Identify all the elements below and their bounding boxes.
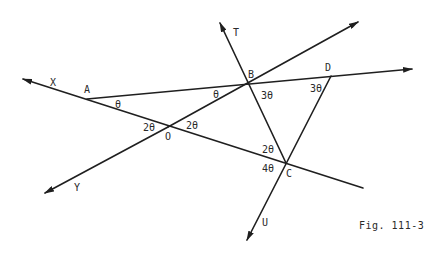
angle-a-theta: θ (115, 99, 121, 110)
label-y: Y (74, 182, 80, 193)
angle-o-right-2theta: 2θ (186, 120, 198, 131)
label-c: C (286, 168, 292, 179)
figure-caption: Fig. 111-3 (359, 220, 424, 231)
angle-b-3theta: 3θ (261, 90, 273, 101)
line-x-to-c (23, 79, 363, 188)
label-b: B (248, 69, 254, 80)
label-o: O (165, 131, 171, 142)
angle-o-left-2theta: 2θ (143, 122, 155, 133)
label-x: X (50, 77, 56, 88)
line-y-o-b-upper (168, 22, 358, 127)
angle-c-4theta: 4θ (262, 163, 274, 174)
label-a: A (84, 84, 90, 95)
label-t: T (233, 27, 239, 38)
angle-d-3theta: 3θ (310, 83, 322, 94)
geometry-figure: X A O Y T B D C U θ θ 3θ 3θ 2θ 2θ 2θ 4θ … (0, 0, 441, 253)
label-u: U (262, 217, 268, 228)
line-d-c-u (247, 76, 331, 240)
line-y-o-b-lower (45, 127, 168, 193)
label-d: D (325, 62, 331, 73)
angle-c-2theta: 2θ (262, 144, 274, 155)
angle-b-theta: θ (213, 89, 219, 100)
